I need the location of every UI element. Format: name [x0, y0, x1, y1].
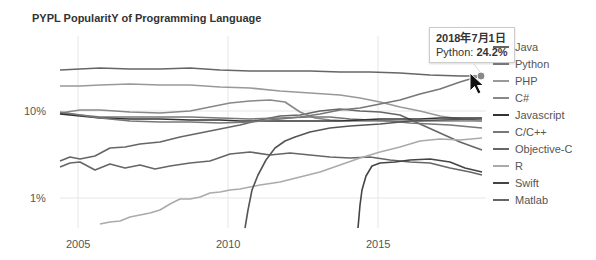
- legend-swatch: [493, 199, 509, 201]
- legend-item-swift[interactable]: Swift: [493, 174, 572, 191]
- legend-swatch: [493, 114, 509, 116]
- series-lines[interactable]: [60, 68, 482, 228]
- legend-swatch: [493, 131, 509, 133]
- legend-swatch: [493, 80, 509, 82]
- legend-item-objective-c[interactable]: Objective-C: [493, 140, 572, 157]
- chart-legend: Java Python PHP C# Javascript C/C++ Obje…: [493, 38, 572, 208]
- y-tick-1pct: 1%: [30, 192, 46, 204]
- legend-swatch: [493, 182, 509, 184]
- legend-label: PHP: [515, 75, 538, 87]
- legend-swatch: [493, 46, 509, 48]
- legend-item-php[interactable]: PHP: [493, 72, 572, 89]
- legend-item-java[interactable]: Java: [493, 38, 572, 55]
- legend-item-javascript[interactable]: Javascript: [493, 106, 572, 123]
- legend-label: R: [515, 160, 523, 172]
- legend-label: Objective-C: [515, 143, 572, 155]
- legend-label: C#: [515, 92, 529, 104]
- legend-label: Python: [515, 58, 549, 70]
- legend-label: Matlab: [515, 194, 548, 206]
- series-java[interactable]: [60, 68, 482, 76]
- legend-label: Javascript: [515, 109, 565, 121]
- legend-item-cpp[interactable]: C/C++: [493, 123, 572, 140]
- legend-label: Java: [515, 41, 538, 53]
- mouse-cursor-icon: [469, 72, 485, 96]
- x-tick-2010: 2010: [216, 238, 240, 250]
- gridlines: [60, 36, 486, 228]
- legend-item-python[interactable]: Python: [493, 55, 572, 72]
- legend-item-r[interactable]: R: [493, 157, 572, 174]
- legend-swatch: [493, 165, 509, 167]
- legend-swatch: [493, 63, 509, 65]
- tooltip-series: Python: [436, 46, 470, 58]
- legend-label: C/C++: [515, 126, 547, 138]
- series-r[interactable]: [100, 138, 482, 224]
- y-tick-10pct: 10%: [24, 105, 46, 117]
- legend-label: Swift: [515, 177, 539, 189]
- legend-swatch: [493, 148, 509, 150]
- tooltip-pointer: [474, 64, 480, 72]
- series-php[interactable]: [60, 84, 482, 121]
- series-swift[interactable]: [358, 159, 482, 228]
- legend-swatch: [493, 97, 509, 99]
- legend-item-matlab[interactable]: Matlab: [493, 191, 572, 208]
- x-tick-2005: 2005: [66, 238, 90, 250]
- x-tick-2015: 2015: [366, 238, 390, 250]
- legend-item-c-sharp[interactable]: C#: [493, 89, 572, 106]
- series-matlab[interactable]: [60, 152, 482, 175]
